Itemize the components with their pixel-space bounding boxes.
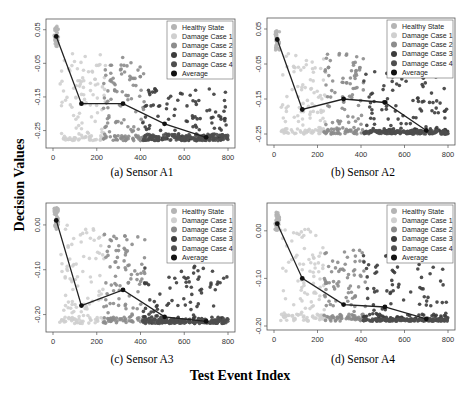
scatter-panel-1: 02004006008000.05-0.05-0.15-0.25Healthy …: [33, 19, 235, 162]
y-tick-label: -0.10: [33, 261, 42, 278]
legend-item-label: Healthy State: [182, 24, 224, 32]
x-tick-label: 800: [222, 153, 235, 162]
y-tick-label: 0.00: [254, 223, 263, 238]
legend-item-label: Damage Case 3: [402, 235, 453, 243]
x-tick-label: 600: [178, 337, 191, 346]
y-tick-label: -0.25: [254, 125, 263, 142]
y-axis-label: Decision Values: [12, 115, 32, 255]
x-tick-label: 400: [134, 337, 147, 346]
legend-item-label: Damage Case 4: [402, 245, 453, 253]
caption-sensor-a2: (b) Sensor A2: [283, 166, 443, 178]
scatter-panel-3: 02004006008000.00-0.10-0.20Healthy State…: [33, 203, 235, 346]
legend-item-label: Damage Case 3: [182, 51, 233, 59]
y-tick-label: 0.00: [33, 218, 42, 233]
x-tick-label: 0: [51, 337, 55, 346]
y-tick-label: -0.05: [33, 55, 42, 72]
legend: Healthy StateDamage Case 1Damage Case 2D…: [387, 205, 453, 263]
legend-item-label: Damage Case 1: [402, 32, 453, 40]
y-tick-label: -0.15: [33, 88, 42, 105]
x-tick-label: 400: [355, 150, 368, 159]
x-tick-label: 600: [178, 153, 191, 162]
legend-item-label: Damage Case 4: [182, 245, 233, 253]
y-tick-label: -0.05: [254, 55, 263, 72]
legend-item-label: Healthy State: [182, 208, 224, 216]
legend-item-label: Healthy State: [402, 208, 444, 216]
legend-item-label: Damage Case 2: [402, 41, 453, 49]
x-tick-label: 200: [311, 335, 324, 344]
legend: Healthy StateDamage Case 1Damage Case 2D…: [387, 20, 453, 78]
x-tick-label: 800: [442, 150, 455, 159]
y-tick-label: -0.25: [33, 122, 42, 139]
legend-item-label: Average: [402, 69, 428, 77]
caption-sensor-a3: (c) Sensor A3: [62, 353, 222, 365]
y-tick-label: -0.20: [33, 306, 42, 323]
y-tick-label: 0.05: [33, 22, 42, 37]
x-tick-label: 600: [398, 150, 411, 159]
legend-item-label: Damage Case 3: [402, 50, 453, 58]
legend-item-label: Average: [182, 70, 208, 78]
caption-sensor-a1: (a) Sensor A1: [62, 166, 222, 178]
caption-sensor-a4: (d) Sensor A4: [283, 353, 443, 365]
y-tick-label: -0.20: [254, 317, 263, 334]
legend-item-label: Damage Case 2: [402, 226, 453, 234]
x-tick-label: 400: [355, 335, 368, 344]
figure: 02004006008000.05-0.05-0.15-0.25Healthy …: [0, 0, 471, 398]
x-tick-label: 0: [272, 335, 276, 344]
x-tick-label: 200: [90, 337, 103, 346]
x-tick-label: 200: [90, 153, 103, 162]
x-axis-label: Test Event Index: [160, 368, 320, 384]
x-tick-label: 0: [272, 150, 276, 159]
x-tick-label: 400: [134, 153, 147, 162]
legend-item-label: Damage Case 1: [182, 33, 233, 41]
scatter-panel-4: 02004006008000.00-0.10-0.20Healthy State…: [254, 203, 455, 344]
legend-item-label: Damage Case 1: [182, 217, 233, 225]
legend-item-label: Damage Case 1: [402, 217, 453, 225]
legend-item-label: Average: [402, 254, 428, 262]
x-tick-label: 200: [311, 150, 324, 159]
legend-item-label: Damage Case 3: [182, 235, 233, 243]
x-tick-label: 800: [442, 335, 455, 344]
legend-item-label: Damage Case 4: [402, 60, 453, 68]
y-tick-label: -0.15: [254, 90, 263, 107]
y-tick-label: 0.05: [254, 22, 263, 37]
x-tick-label: 0: [51, 153, 55, 162]
y-tick-label: -0.10: [254, 270, 263, 287]
legend-item-label: Average: [182, 254, 208, 262]
legend-item-label: Damage Case 4: [182, 61, 233, 69]
legend: Healthy StateDamage Case 1Damage Case 2D…: [167, 21, 233, 79]
legend-item-label: Damage Case 2: [182, 42, 233, 50]
x-tick-label: 800: [222, 337, 235, 346]
x-tick-label: 600: [398, 335, 411, 344]
scatter-panel-2: 02004006008000.05-0.05-0.15-0.25Healthy …: [254, 18, 455, 159]
legend-item-label: Damage Case 2: [182, 226, 233, 234]
legend-item-label: Healthy State: [402, 23, 444, 31]
legend: Healthy StateDamage Case 1Damage Case 2D…: [167, 205, 233, 263]
